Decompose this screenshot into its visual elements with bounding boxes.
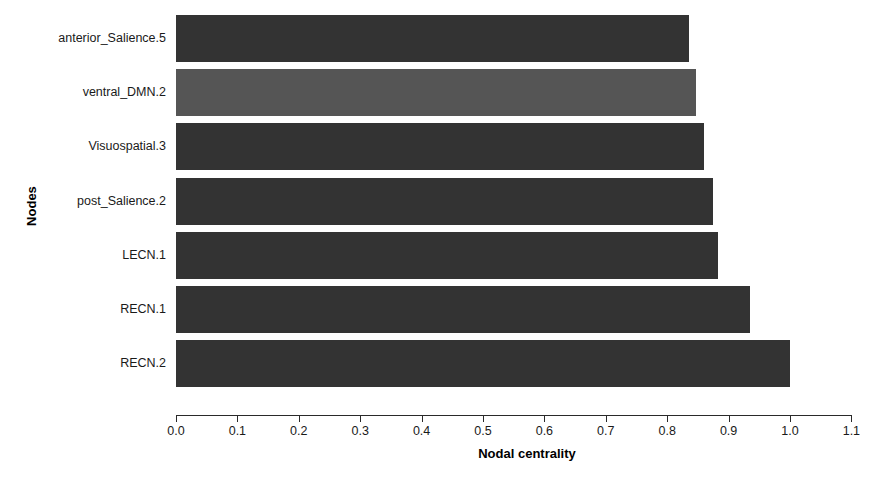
- x-axis-tick-label: 0.3: [330, 424, 390, 438]
- x-axis-tick-label: 0.8: [637, 424, 697, 438]
- bar[interactable]: [176, 340, 790, 387]
- bar[interactable]: [176, 178, 713, 225]
- x-axis-tick-label: 0.4: [392, 424, 452, 438]
- y-axis-tick-label: ventral_DMN.2: [0, 69, 166, 116]
- x-axis-tick-label: 0.6: [514, 424, 574, 438]
- bar-row[interactable]: [176, 340, 790, 387]
- bar-row[interactable]: [176, 286, 750, 333]
- y-axis-tick-label: RECN.2: [0, 340, 166, 387]
- x-axis-title-text: Nodal centrality: [478, 446, 576, 461]
- x-axis-tick: [422, 415, 423, 422]
- x-axis-tick: [483, 415, 484, 422]
- x-axis-tick: [606, 415, 607, 422]
- x-axis-tick: [237, 415, 238, 422]
- x-axis-tick: [851, 415, 852, 422]
- bar-row[interactable]: [176, 232, 718, 279]
- x-axis-tick: [790, 415, 791, 422]
- x-axis-tick-label: 0.9: [699, 424, 759, 438]
- bar[interactable]: [176, 286, 750, 333]
- bar-row[interactable]: [176, 123, 704, 170]
- bar-row[interactable]: [176, 178, 713, 225]
- bar[interactable]: [176, 123, 704, 170]
- x-axis-tick: [176, 415, 177, 422]
- x-axis-line: [176, 415, 852, 416]
- y-axis-tick-label: RECN.1: [0, 286, 166, 333]
- x-axis-tick: [667, 415, 668, 422]
- bar[interactable]: [176, 69, 696, 116]
- bar-row[interactable]: [176, 69, 696, 116]
- bar[interactable]: [176, 232, 718, 279]
- y-axis-tick-label: Visuospatial.3: [0, 123, 166, 170]
- bar[interactable]: [176, 15, 689, 62]
- x-axis-tick-label: 0.5: [453, 424, 513, 438]
- x-axis-tick-label: 0.7: [576, 424, 636, 438]
- x-axis-tick-label: 1.1: [821, 424, 878, 438]
- y-axis-tick-label: anterior_Salience.5: [0, 15, 166, 62]
- x-axis-title: Nodal centrality: [0, 446, 878, 461]
- bar-chart: Nodes anterior_Salience.5ventral_DMN.2Vi…: [0, 0, 878, 481]
- x-axis-tick-label: 0.1: [207, 424, 267, 438]
- x-axis-tick: [299, 415, 300, 422]
- y-axis-tick-label: LECN.1: [0, 232, 166, 279]
- x-axis-tick-label: 1.0: [760, 424, 820, 438]
- x-axis-tick-label: 0.2: [269, 424, 329, 438]
- bar-row[interactable]: [176, 15, 689, 62]
- plot-area: anterior_Salience.5ventral_DMN.2Visuospa…: [176, 0, 878, 415]
- x-axis-tick: [544, 415, 545, 422]
- y-axis-tick-label: post_Salience.2: [0, 178, 166, 225]
- x-axis-tick: [360, 415, 361, 422]
- x-axis-tick: [729, 415, 730, 422]
- x-axis-tick-label: 0.0: [146, 424, 206, 438]
